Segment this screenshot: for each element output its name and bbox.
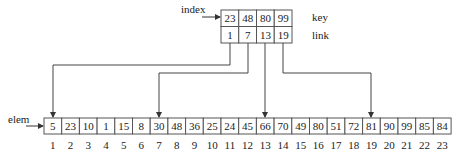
elem-value: 66 — [260, 120, 272, 132]
elem-value: 90 — [384, 120, 396, 132]
elem-value: 5 — [50, 120, 56, 132]
elem-position: 10 — [207, 139, 219, 151]
elem-value: 1 — [103, 120, 109, 132]
elem-position: 1 — [50, 139, 56, 151]
link-connectors — [53, 43, 371, 117]
elem-position: 11 — [225, 139, 236, 151]
elem-position: 5 — [121, 139, 127, 151]
elem-position: 13 — [260, 139, 272, 151]
elem-value: 99 — [401, 120, 413, 132]
elem-position: 19 — [366, 139, 378, 151]
elem-position: 16 — [313, 139, 325, 151]
key-value: 99 — [278, 12, 290, 24]
link-arrow-19 — [283, 43, 371, 117]
key-value: 48 — [242, 12, 254, 24]
key-row-label: key — [312, 11, 328, 23]
elem-position: 15 — [295, 139, 307, 151]
index-label: index — [181, 3, 206, 15]
link-value: 7 — [245, 29, 251, 41]
elem-position: 6 — [139, 139, 145, 151]
elem-value: 10 — [83, 120, 95, 132]
elem-position: 18 — [348, 139, 360, 151]
elem-position: 9 — [192, 139, 198, 151]
elem-position: 12 — [242, 139, 253, 151]
elem-positions: 1234567891011121314151617181920212223 — [50, 139, 448, 151]
elem-value: 81 — [366, 120, 377, 132]
key-value: 23 — [224, 12, 236, 24]
link-value: 13 — [260, 29, 272, 41]
elem-value: 36 — [189, 120, 201, 132]
link-value: 1 — [227, 29, 233, 41]
elem-value: 85 — [419, 120, 431, 132]
elem-position: 20 — [384, 139, 396, 151]
elem-position: 7 — [156, 139, 162, 151]
elem-value: 23 — [65, 120, 77, 132]
elem-position: 2 — [68, 139, 74, 151]
elem-value: 70 — [277, 120, 289, 132]
link-arrow-1 — [53, 43, 230, 117]
index-sequential-diagram: index 23148780139919 key link elem 52310… — [0, 0, 462, 156]
elem-position: 21 — [401, 139, 412, 151]
elem-position: 22 — [419, 139, 430, 151]
elem-position: 4 — [103, 139, 109, 151]
elem-value: 51 — [331, 120, 342, 132]
elem-position: 14 — [277, 139, 289, 151]
elem-value: 45 — [242, 120, 254, 132]
elem-value: 84 — [437, 120, 449, 132]
elem-value: 8 — [139, 120, 145, 132]
key-value: 80 — [260, 12, 272, 24]
elem-value: 24 — [224, 120, 236, 132]
elem-value: 25 — [207, 120, 219, 132]
elem-value: 49 — [295, 120, 307, 132]
link-arrow-7 — [159, 43, 248, 117]
elem-value: 30 — [154, 120, 166, 132]
elem-array: 5231011583048362524456670498051728190998… — [44, 118, 451, 134]
link-row-label: link — [312, 29, 330, 41]
elem-value: 80 — [313, 120, 325, 132]
elem-value: 48 — [171, 120, 183, 132]
elem-position: 17 — [331, 139, 343, 151]
elem-position: 8 — [174, 139, 180, 151]
elem-value: 15 — [118, 120, 130, 132]
elem-value: 72 — [348, 120, 359, 132]
link-value: 19 — [278, 29, 290, 41]
elem-label: elem — [8, 113, 30, 125]
elem-position: 23 — [437, 139, 449, 151]
elem-position: 3 — [86, 139, 92, 151]
index-table: 23148780139919 — [221, 10, 292, 43]
